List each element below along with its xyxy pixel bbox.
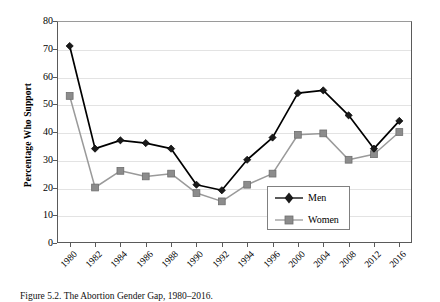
x-tick-label: 1982 — [74, 249, 104, 279]
legend-label-men: Men — [308, 192, 326, 204]
x-tick-label: 1988 — [150, 249, 180, 279]
x-tick-mark — [171, 243, 172, 247]
x-tick-label: 1996 — [252, 249, 282, 279]
plot-area — [57, 21, 412, 243]
legend-item-women: Women — [268, 209, 349, 231]
x-tick-mark — [399, 243, 400, 247]
y-tick-mark — [53, 104, 57, 105]
y-tick-label: 40 — [19, 127, 53, 137]
x-tick-mark — [374, 243, 375, 247]
y-tick-label: 20 — [19, 183, 53, 193]
y-tick-label: 80 — [19, 16, 53, 26]
y-tick-mark — [53, 132, 57, 133]
x-tick-label: 2000 — [277, 249, 307, 279]
x-tick-mark — [70, 243, 71, 247]
y-tick-mark — [53, 77, 57, 78]
x-tick-label: 1980 — [49, 249, 79, 279]
y-tick-label: 50 — [19, 99, 53, 109]
x-tick-label: 1994 — [227, 249, 257, 279]
gridline — [58, 161, 411, 162]
x-tick-label: 2004 — [303, 249, 333, 279]
gridline — [58, 133, 411, 134]
gridline — [58, 189, 411, 190]
figure-caption: Figure 5.2. The Abortion Gender Gap, 198… — [20, 290, 430, 302]
gridline — [58, 105, 411, 106]
y-tick-mark — [53, 21, 57, 22]
x-tick-mark — [196, 243, 197, 247]
y-tick-label: 30 — [19, 155, 53, 165]
x-tick-label: 1990 — [176, 249, 206, 279]
x-tick-mark — [273, 243, 274, 247]
y-tick-mark — [53, 188, 57, 189]
x-tick-label: 1986 — [125, 249, 155, 279]
gridline — [58, 216, 411, 217]
gridline — [58, 78, 411, 79]
y-tick-mark — [53, 215, 57, 216]
legend-marker-square-icon — [274, 209, 304, 231]
x-tick-mark — [120, 243, 121, 247]
gridline — [58, 50, 411, 51]
y-axis-ticks: 01020304050607080 — [17, 21, 53, 243]
x-tick-label: 1984 — [100, 249, 130, 279]
x-tick-mark — [146, 243, 147, 247]
x-tick-mark — [349, 243, 350, 247]
y-tick-mark — [53, 243, 57, 244]
chart-legend: Men Women — [267, 186, 350, 230]
x-tick-mark — [247, 243, 248, 247]
y-tick-label: 10 — [19, 210, 53, 220]
y-tick-label: 60 — [19, 72, 53, 82]
x-tick-label: 2008 — [328, 249, 358, 279]
legend-item-men: Men — [268, 187, 349, 209]
y-tick-mark — [53, 160, 57, 161]
x-tick-mark — [298, 243, 299, 247]
x-tick-label: 2012 — [353, 249, 383, 279]
x-tick-label: 2016 — [379, 249, 409, 279]
x-tick-mark — [222, 243, 223, 247]
y-tick-label: 0 — [19, 238, 53, 248]
x-tick-label: 1992 — [201, 249, 231, 279]
x-tick-mark — [323, 243, 324, 247]
x-tick-mark — [95, 243, 96, 247]
legend-marker-diamond-icon — [274, 187, 304, 209]
legend-label-women: Women — [308, 214, 339, 226]
y-tick-label: 70 — [19, 44, 53, 54]
y-tick-mark — [53, 49, 57, 50]
